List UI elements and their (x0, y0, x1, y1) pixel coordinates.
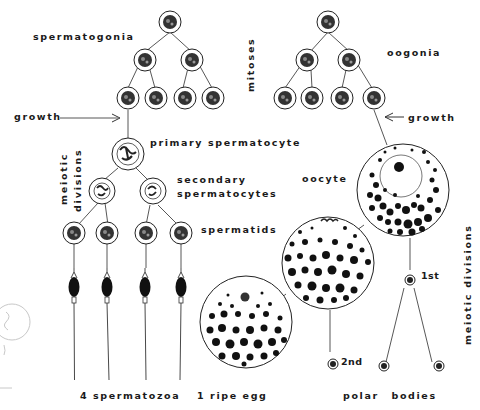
primary-spermatocyte-cell (112, 138, 144, 170)
label-secondary: secondary (177, 174, 247, 185)
label-growth-left: growth (14, 111, 62, 122)
spermatogonia-cells (117, 11, 224, 109)
label-mitoses: mitoses (245, 37, 256, 92)
label-spermatids: spermatids (201, 224, 277, 235)
oocyte-cell (357, 144, 449, 236)
label-oogonia: oogonia (387, 47, 441, 58)
label-meiotic-divisions-right: meiotic divisions (462, 224, 473, 345)
pencil-doodle (0, 304, 30, 388)
label-second-polar: 2nd (341, 356, 363, 367)
label-1-ripe-egg: 1 ripe egg (197, 390, 267, 401)
label-spermatocytes: spermatocytes (177, 188, 277, 199)
mid-egg-cell (282, 217, 374, 309)
label-primary-spermatocyte: primary spermatocyte (150, 137, 301, 148)
label-first-polar: 1st (421, 270, 439, 281)
label-divisions-left: divisions (72, 148, 83, 212)
label-growth-right: growth (408, 112, 456, 123)
spermatid-cells (63, 222, 192, 244)
spermatozoa (69, 268, 187, 380)
label-spermatogonia: spermatogonia (33, 31, 135, 42)
oogonia-cells (274, 11, 385, 109)
label-4-spermatozoa: 4 spermatozoa (80, 390, 180, 401)
label-oocyte: oocyte (302, 173, 347, 184)
secondary-spermatocyte-cells (89, 178, 166, 204)
label-polar-bodies: polar bodies (343, 390, 437, 401)
ripe-egg-cell (200, 276, 292, 368)
label-meiotic-left: meiotic (58, 153, 69, 205)
